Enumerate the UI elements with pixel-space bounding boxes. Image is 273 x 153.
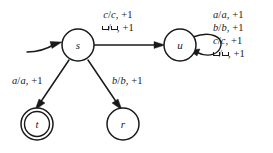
edge-label-u-loop-line2: b/b, +1 xyxy=(213,21,245,34)
edge-label-u-loop-read2: b xyxy=(213,22,218,33)
edge-label-s-to-t-line1: a/a, +1 xyxy=(12,74,43,87)
edge-label-u-loop-move3: , +1 xyxy=(226,35,243,46)
edge-label-s-to-u-move1: , +1 xyxy=(116,9,133,20)
edge-label-s-to-r-line1: b/b, +1 xyxy=(112,74,143,87)
edge-label-u-loop-move2: , +1 xyxy=(227,22,244,33)
edge-label-u-loop-line3: c/c, +1 xyxy=(213,34,245,47)
edge-label-s-to-r-move: , +1 xyxy=(126,75,143,86)
edge-label-s-to-u-read1: c xyxy=(103,9,108,20)
fsm-diagram: s u t r c/c, +1 /, +1 a/a, +1 b/b, +1 a/ xyxy=(0,0,273,153)
edge-s-to-u xyxy=(94,42,165,49)
edge-label-u-loop-line1: a/a, +1 xyxy=(213,8,245,21)
state-node-t[interactable]: t xyxy=(21,108,53,140)
edge-label-s-to-t: a/a, +1 xyxy=(12,74,43,87)
edge-label-s-to-u-line1: c/c, +1 xyxy=(102,8,134,21)
edge-label-s-to-r: b/b, +1 xyxy=(112,74,143,87)
state-node-u[interactable]: u xyxy=(164,29,196,61)
edge-label-u-loop-move4: , +1 xyxy=(228,48,245,59)
edge-label-u-loop-move1: , +1 xyxy=(227,9,244,20)
edge-label-s-to-u-line2: /, +1 xyxy=(102,21,134,34)
edge-label-s-to-t-read: a xyxy=(12,75,17,86)
edge-label-s-to-u-move2: , +1 xyxy=(117,22,134,33)
edge-label-u-loop-line4: /, +1 xyxy=(213,47,245,60)
edge-label-u-self-loop: a/a, +1 b/b, +1 c/c, +1 /, +1 xyxy=(213,8,245,60)
start-arrow-line xyxy=(27,44,55,52)
state-node-s[interactable]: s xyxy=(62,29,94,61)
edge-s-to-t-line xyxy=(40,60,69,103)
edge-label-s-to-r-read: b xyxy=(112,75,117,86)
state-node-r[interactable]: r xyxy=(107,108,139,140)
edge-label-u-loop-read3: c xyxy=(213,35,218,46)
edge-label-u-loop-read1: a xyxy=(213,9,218,20)
edge-label-s-to-t-move: , +1 xyxy=(26,75,43,86)
start-arrow xyxy=(27,42,62,53)
start-arrow-head xyxy=(50,42,62,49)
state-r-label: r xyxy=(121,118,126,130)
state-s-label: s xyxy=(76,39,80,51)
edge-label-s-to-u: c/c, +1 /, +1 xyxy=(102,8,134,34)
state-u-label: u xyxy=(177,39,183,51)
